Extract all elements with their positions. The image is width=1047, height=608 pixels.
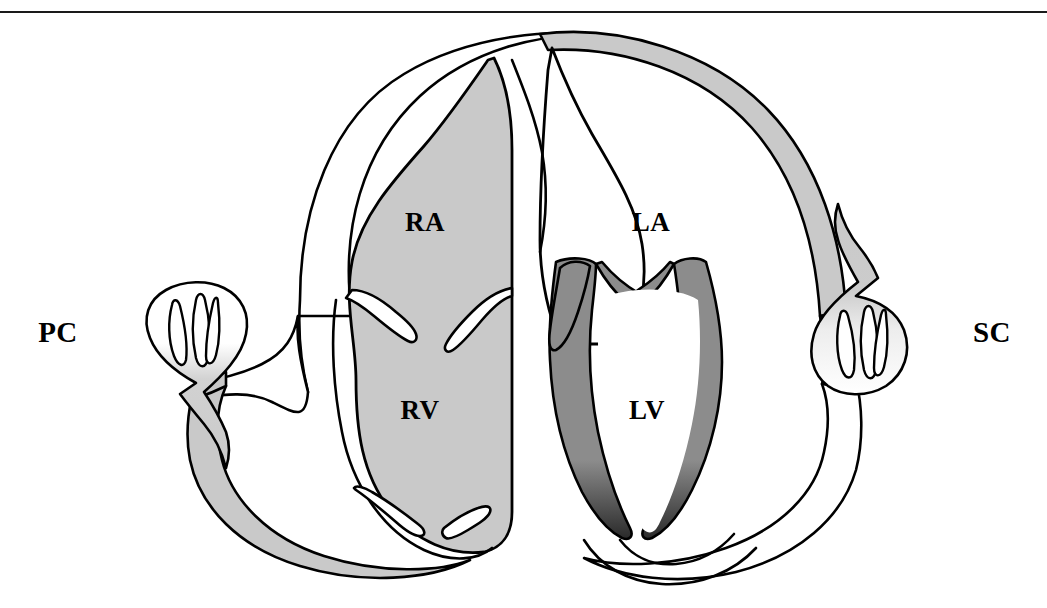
label-right-atrium: RA [405,207,445,237]
label-left-atrium: LA [632,207,671,237]
figure-root: PC SC RA LA RV LV [0,0,1047,608]
label-right-ventricle: RV [400,395,439,425]
label-pulmonary-circuit: PC [38,316,78,348]
label-left-ventricle: LV [629,395,665,425]
label-systemic-circuit: SC [973,316,1011,348]
circulation-diagram: PC SC RA LA RV LV [0,0,1047,608]
